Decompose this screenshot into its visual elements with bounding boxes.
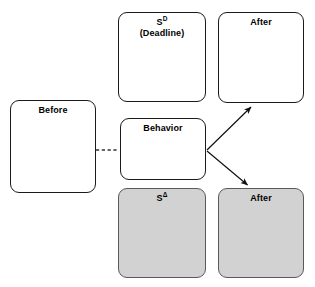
node-s-delta-label: SΔ: [157, 189, 168, 204]
node-deadline-sublabel: (Deadline): [140, 28, 185, 39]
node-before-label: Before: [38, 101, 67, 116]
node-after-bottom-label: After: [250, 189, 272, 204]
node-deadline-label: SD (Deadline): [140, 13, 185, 39]
node-after-bottom: After: [218, 188, 304, 278]
node-behavior: Behavior: [120, 118, 206, 180]
node-s-delta-superscript: Δ: [163, 191, 168, 198]
node-before: Before: [10, 100, 96, 193]
node-behavior-label: Behavior: [143, 119, 182, 134]
connector-behavior-to-after-top: [207, 107, 251, 150]
node-s-delta: SΔ: [118, 188, 206, 278]
node-after-top: After: [218, 12, 304, 103]
node-deadline-superscript: D: [163, 15, 168, 22]
node-after-top-label: After: [250, 13, 272, 28]
node-deadline: SD (Deadline): [118, 12, 206, 102]
connector-behavior-to-after-bottom: [207, 151, 248, 185]
diagram-canvas: Before SD (Deadline) After Behavior SΔ A…: [0, 0, 315, 287]
